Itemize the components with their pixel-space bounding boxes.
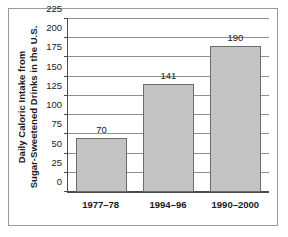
y-tick-label: 200 — [46, 22, 62, 33]
y-tick-label: 100 — [46, 99, 62, 110]
plot-area: 0255075100125150175200225 70141190 — [67, 19, 269, 193]
bar[interactable] — [143, 84, 194, 192]
bar-slot: 190 — [202, 19, 269, 192]
bar[interactable] — [76, 138, 127, 192]
chart-frame: Daily Caloric Intake from Sugar-Sweetene… — [8, 8, 278, 226]
bar-value-label: 70 — [68, 124, 135, 135]
y-tick-label: 175 — [46, 41, 62, 52]
x-axis-category-label: 1994–96 — [134, 199, 201, 210]
y-tick-label: 25 — [51, 156, 62, 167]
y-tick-label: 50 — [51, 137, 62, 148]
y-axis-title: Daily Caloric Intake from Sugar-Sweetene… — [11, 9, 45, 205]
bars-layer: 70141190 — [68, 19, 269, 192]
x-axis-labels: 1977–781994–961990–2000 — [67, 199, 269, 215]
bar[interactable] — [210, 46, 261, 192]
y-axis-title-line-1: Daily Caloric Intake from — [16, 51, 28, 164]
y-axis-title-line-2: Sugar-Sweetened Drinks in the U.S. — [28, 26, 40, 189]
plot-wrapper: 0255075100125150175200225 70141190 — [67, 19, 269, 193]
y-tick-label: 75 — [51, 118, 62, 129]
bar-value-label: 190 — [202, 32, 269, 43]
y-tick-label: 125 — [46, 79, 62, 90]
y-tick-label: 0 — [57, 176, 62, 187]
bar-slot: 141 — [135, 19, 202, 192]
x-axis-category-label: 1990–2000 — [202, 199, 269, 210]
y-tick-label: 150 — [46, 60, 62, 71]
y-tick-label: 225 — [46, 3, 62, 14]
x-axis-category-label: 1977–78 — [67, 199, 134, 210]
bar-value-label: 141 — [135, 70, 202, 81]
bar-slot: 70 — [68, 19, 135, 192]
